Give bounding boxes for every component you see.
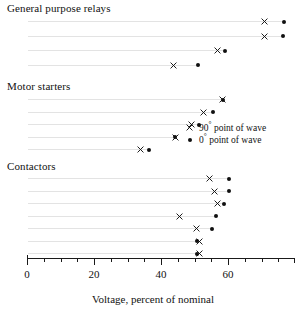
marker-0deg: [147, 148, 151, 152]
x-tick-minor: [77, 259, 78, 262]
marker-90deg: [219, 96, 226, 103]
marker-0deg: [281, 34, 285, 38]
marker-0deg: [222, 202, 226, 206]
degree-sign: °: [204, 132, 207, 141]
degree-sign: °: [209, 120, 212, 129]
group-title-g2: Contactors: [7, 160, 56, 172]
gridline: [28, 137, 173, 138]
gridline: [28, 21, 282, 22]
x-tick-label: 20: [82, 268, 106, 280]
gridline: [28, 228, 210, 229]
gridline: [28, 216, 214, 217]
x-tick-label: 60: [216, 268, 240, 280]
gridline: [28, 36, 281, 37]
gridline: [28, 241, 198, 242]
marker-90deg: [200, 109, 207, 116]
x-tick-minor: [144, 259, 145, 262]
gridline: [28, 112, 211, 113]
marker-90deg: [170, 62, 177, 69]
marker-90deg: [261, 33, 268, 40]
marker-90deg: [193, 225, 200, 232]
gridline: [28, 253, 198, 254]
marker-90deg: [196, 250, 203, 257]
x-tick-minor: [44, 259, 45, 262]
group-title-g0: General purpose relays: [7, 2, 111, 14]
marker-90deg: [211, 188, 218, 195]
marker-0deg: [227, 177, 231, 181]
x-axis-start-cap: [27, 255, 28, 259]
x-tick-minor: [245, 259, 246, 262]
marker-90deg: [206, 175, 213, 182]
gridline: [28, 191, 227, 192]
x-tick-minor: [211, 259, 212, 262]
marker-0deg: [214, 214, 218, 218]
marker-0deg: [282, 20, 286, 24]
voltage-dropout-chart: General purpose relaysMotor startersCont…: [0, 0, 306, 323]
x-tick-minor: [128, 259, 129, 262]
x-tick-minor: [262, 259, 263, 262]
marker-90deg: [261, 18, 268, 25]
x-axis-end-cap: [294, 259, 295, 263]
x-tick-minor: [61, 259, 62, 262]
legend-label: 90° point of wave: [199, 122, 266, 134]
marker-0deg: [223, 49, 227, 53]
marker-90deg: [214, 47, 221, 54]
gridline: [28, 50, 223, 51]
gridline: [28, 149, 147, 150]
gridline: [28, 124, 197, 125]
x-tick-minor: [178, 259, 179, 262]
legend-dot-icon: [186, 134, 195, 146]
x-tick-major: [161, 259, 162, 265]
gridline: [28, 203, 222, 204]
x-tick-major: [27, 259, 28, 265]
group-title-g1: Motor starters: [7, 80, 70, 92]
x-tick-major: [228, 259, 229, 265]
marker-90deg: [137, 146, 144, 153]
x-tick-label: 0: [15, 268, 39, 280]
marker-90deg: [196, 238, 203, 245]
x-tick-minor: [278, 259, 279, 262]
legend-label: 0° point of wave: [199, 134, 261, 146]
marker-0deg: [211, 110, 215, 114]
gridline: [28, 99, 221, 100]
marker-0deg: [210, 227, 214, 231]
gridline: [28, 178, 227, 179]
x-tick-major: [94, 259, 95, 265]
x-axis-label: Voltage, percent of nominal: [0, 293, 306, 306]
legend-x-icon: [186, 122, 195, 134]
marker-90deg: [176, 213, 183, 220]
marker-0deg: [196, 63, 200, 67]
legend-dot-glyph: [188, 138, 192, 142]
marker-90deg: [214, 200, 221, 207]
x-tick-label: 40: [149, 268, 173, 280]
marker-90deg: [172, 134, 179, 141]
x-tick-minor: [111, 259, 112, 262]
x-tick-minor: [195, 259, 196, 262]
marker-0deg: [227, 189, 231, 193]
